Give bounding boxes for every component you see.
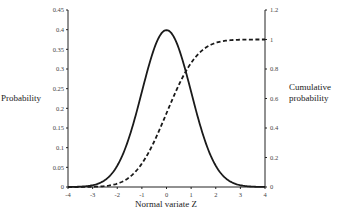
left-y-axis: 00.050.10.150.20.250.30.350.40.45 xyxy=(53,6,68,190)
right-y-tick-label: 0.2 xyxy=(270,154,278,161)
right-y-axis-title: Cumulative probability xyxy=(289,82,331,104)
left-y-tick-label: 0.45 xyxy=(53,6,64,13)
x-tick-label: -1 xyxy=(139,191,144,198)
right-y-axis-title-line-1: Cumulative xyxy=(289,82,331,93)
probability-density-curve xyxy=(68,30,265,187)
left-y-tick-label: 0.3 xyxy=(56,65,64,72)
x-axis: -4-3-2-101234 xyxy=(65,187,267,198)
left-y-tick-label: 0.4 xyxy=(56,26,65,33)
left-y-tick-label: 0.35 xyxy=(53,46,64,53)
x-tick-label: -3 xyxy=(90,191,95,198)
right-y-tick-label: 0 xyxy=(270,183,273,190)
x-tick-label: 0 xyxy=(165,191,168,198)
chart: 00.050.10.150.20.250.30.350.40.45 00.20.… xyxy=(0,0,339,221)
x-tick-label: -4 xyxy=(65,191,71,198)
right-y-tick-label: 1.2 xyxy=(270,6,278,13)
x-tick-label: 4 xyxy=(263,191,267,198)
right-y-tick-label: 0.4 xyxy=(270,124,279,131)
x-tick-label: -2 xyxy=(115,191,120,198)
right-y-axis-title-line-2: probability xyxy=(289,93,331,104)
left-y-tick-label: 0.2 xyxy=(56,105,64,112)
right-y-tick-label: 1 xyxy=(270,36,273,43)
cumulative-probability-curve xyxy=(68,40,265,188)
left-y-tick-label: 0.25 xyxy=(53,85,64,92)
left-y-axis-title: Probability xyxy=(1,93,41,104)
x-tick-label: 2 xyxy=(214,191,217,198)
left-y-tick-label: 0.05 xyxy=(53,164,64,171)
right-y-tick-label: 0.8 xyxy=(270,65,278,72)
right-y-axis: 00.20.40.60.811.2 xyxy=(265,6,279,190)
left-y-tick-label: 0.15 xyxy=(53,124,64,131)
left-y-tick-label: 0.1 xyxy=(56,144,64,151)
x-tick-label: 3 xyxy=(239,191,242,198)
x-tick-label: 1 xyxy=(190,191,193,198)
left-y-tick-label: 0 xyxy=(61,183,64,190)
x-axis-title: Normal variate Z xyxy=(135,199,197,209)
right-y-tick-label: 0.6 xyxy=(270,95,279,102)
